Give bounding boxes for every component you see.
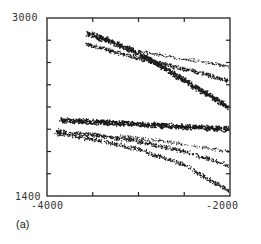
series-band-7 — [120, 134, 229, 153]
axis-ticks — [47, 18, 230, 196]
data-points — [54, 31, 229, 193]
series-band-1 — [86, 31, 230, 111]
series-band-4 — [59, 117, 230, 133]
y-tick-label-top: 3000 — [12, 12, 38, 23]
panel-label: (a) — [16, 218, 29, 230]
x-tick-label-right: -2000 — [206, 200, 239, 211]
plot-frame — [47, 18, 230, 196]
x-tick-label-left: -4000 — [31, 200, 64, 211]
